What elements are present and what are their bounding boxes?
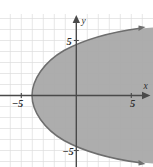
y-axis-tick-label-positive-5: 5 bbox=[66, 36, 71, 47]
y-axis-label: y bbox=[80, 16, 86, 26]
x-axis-label: x bbox=[142, 81, 148, 91]
x-axis-tick-label-positive-5: 5 bbox=[130, 98, 135, 109]
parabola-inequality-graph: −5 5 5 −5 y x bbox=[0, 0, 153, 167]
y-axis-tick-label-negative-5: −5 bbox=[62, 146, 74, 157]
x-axis-tick-label-negative-5: −5 bbox=[12, 98, 24, 109]
